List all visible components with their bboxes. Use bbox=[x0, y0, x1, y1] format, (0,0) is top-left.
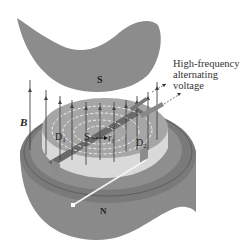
south-pole-magnet bbox=[17, 18, 161, 92]
radius-subscript: 1 bbox=[111, 137, 115, 145]
dee-2-label: D2 bbox=[136, 138, 147, 150]
cyclotron-illustration bbox=[0, 0, 252, 250]
south-pole-label: S bbox=[97, 75, 103, 85]
dee-2-subscript: 2 bbox=[143, 142, 147, 150]
north-pole-label: N bbox=[100, 207, 107, 216]
dee-1-label: D1 bbox=[55, 132, 66, 144]
magnetic-field-label: B bbox=[20, 117, 27, 128]
caption-line-1: High-frequency bbox=[173, 58, 239, 69]
exit-point bbox=[71, 203, 75, 207]
radius-label: r1 bbox=[108, 133, 115, 145]
voltage-caption: High-frequency alternating voltage bbox=[173, 58, 239, 91]
caption-line-2: alternating bbox=[173, 69, 239, 80]
dee-1-subscript: 1 bbox=[62, 136, 66, 144]
caption-line-3: voltage bbox=[173, 80, 239, 91]
source-label: S bbox=[84, 132, 90, 142]
cyclotron-diagram: High-frequency alternating voltage S N B… bbox=[0, 0, 252, 250]
